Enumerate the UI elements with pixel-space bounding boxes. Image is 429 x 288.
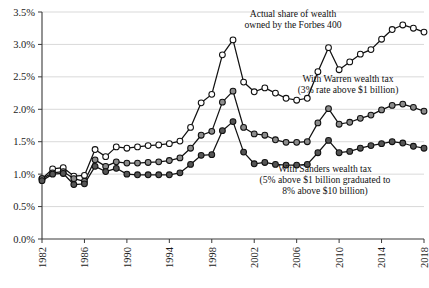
data-point-marker [410,143,416,149]
data-point-marker [336,67,342,73]
y-axis-tick-label: 0.5% [13,201,35,212]
warren-tax-annotation-line-1: With Warren wealth tax [302,73,393,84]
data-point-marker [304,139,310,145]
data-point-marker [326,106,332,112]
x-axis-tick-label: 1986 [79,247,90,268]
data-point-marker [124,145,130,151]
data-point-marker [326,138,332,144]
data-point-marker [135,144,141,150]
data-point-marker [82,173,88,179]
data-point-marker [251,131,257,137]
data-point-marker [400,101,406,107]
data-point-marker [209,91,215,97]
data-point-marker [357,145,363,151]
chart-background [0,0,429,288]
forbes-400-annotation: Actual share of wealth owned by the Forb… [245,8,342,30]
data-point-marker [92,147,98,153]
data-point-marker [283,95,289,101]
y-axis-tick-label: 3.5% [13,7,35,18]
sanders-tax-annotation-line-3: 8% above $10 billion) [282,185,368,197]
y-axis-tick-label: 2.0% [13,104,35,115]
data-point-marker [92,157,98,163]
data-point-marker [273,137,279,143]
x-axis-tick-label: 2002 [249,247,260,268]
data-point-marker [389,27,395,33]
data-point-marker [166,141,172,147]
data-point-marker [326,45,332,51]
data-point-marker [251,89,257,95]
data-point-marker [135,160,141,166]
data-point-marker [315,120,321,126]
data-point-marker [60,171,66,177]
warren-tax-annotation-line-2: (3% rate above $1 billion) [298,84,399,96]
data-point-marker [304,95,310,101]
data-point-marker [209,152,215,158]
data-point-marker [71,182,77,188]
data-point-marker [347,149,353,155]
data-point-marker [357,51,363,57]
data-point-marker [177,155,183,161]
y-axis-tick-label: 1.0% [13,169,35,180]
data-point-marker [262,160,268,166]
y-axis-tick-label: 0.0% [13,234,35,245]
data-point-marker [368,143,374,149]
data-point-marker [177,138,183,144]
data-point-marker [379,36,385,42]
data-point-marker [188,162,194,168]
data-point-marker [421,145,427,151]
sanders-tax-annotation-line-1: With Sanders wealth tax [278,163,372,174]
data-point-marker [230,88,236,94]
data-point-marker [368,112,374,118]
data-point-marker [262,85,268,91]
data-point-marker [230,37,236,43]
data-point-marker [188,145,194,151]
x-axis-tick-label: 2018 [419,247,429,268]
data-point-marker [124,160,130,166]
x-axis-tick-label: 1990 [122,247,133,268]
x-axis-tick-label: 1994 [164,246,175,268]
data-point-marker [145,143,151,149]
data-point-marker [219,99,225,105]
forbes-400-annotation-line-2: owned by the Forbes 400 [245,19,342,30]
data-point-marker [357,115,363,121]
y-axis-tick-label: 1.5% [13,136,35,147]
data-point-marker [400,22,406,28]
data-point-marker [103,154,109,160]
data-point-marker [156,142,162,148]
wealth-share-line-chart: 0.0%0.5%1.0%1.5%2.0%2.5%3.0%3.5% 1982198… [0,0,429,288]
data-point-marker [145,172,151,178]
data-point-marker [336,121,342,127]
data-point-marker [198,152,204,158]
data-point-marker [336,150,342,156]
data-point-marker [145,160,151,166]
data-point-marker [410,25,416,31]
data-point-marker [389,139,395,145]
data-point-marker [124,171,130,177]
data-point-marker [156,172,162,178]
data-point-marker [347,59,353,65]
data-point-marker [379,107,385,113]
data-point-marker [188,125,194,131]
forbes-400-annotation-line-1: Actual share of wealth [250,8,337,19]
data-point-marker [198,100,204,106]
data-point-marker [156,159,162,165]
data-point-marker [347,119,353,125]
data-point-marker [166,158,172,164]
data-point-marker [166,172,172,178]
data-point-marker [400,140,406,146]
data-point-marker [294,139,300,145]
warren-tax-annotation: With Warren wealth tax (3% rate above $1… [298,73,399,96]
data-point-marker [283,139,289,145]
data-point-marker [241,149,247,155]
figure-container: 0.0%0.5%1.0%1.5%2.0%2.5%3.0%3.5% 1982198… [0,0,429,288]
data-point-marker [113,144,119,150]
data-point-marker [262,132,268,138]
data-point-marker [209,128,215,134]
data-point-marker [294,97,300,103]
x-axis-tick-label: 2010 [334,247,345,268]
data-point-marker [315,150,321,156]
data-point-marker [50,171,56,177]
data-point-marker [198,132,204,138]
data-point-marker [410,104,416,110]
data-point-marker [421,29,427,35]
